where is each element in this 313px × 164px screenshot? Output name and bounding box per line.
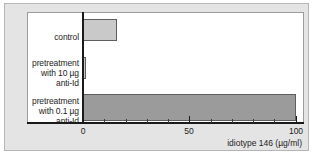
x-tick-minor: [211, 119, 212, 123]
x-tick-minor: [253, 119, 254, 123]
figure-canvas: control pretreatment with 10 µg anti-Id …: [4, 3, 309, 151]
x-tick-minor: [126, 119, 127, 123]
x-tick-label: 100: [289, 126, 303, 136]
x-axis-title: idiotype 146 (µg/ml): [227, 138, 302, 148]
x-tick-minor: [147, 119, 148, 123]
chart-figure: control pretreatment with 10 µg anti-Id …: [0, 0, 313, 164]
x-tick-minor: [274, 119, 275, 123]
x-tick-minor: [232, 119, 233, 123]
x-axis-ticks: 050100: [5, 4, 308, 150]
x-tick-major: [189, 116, 190, 123]
x-tick-minor: [168, 119, 169, 123]
x-tick-label: 50: [184, 126, 193, 136]
x-tick-major: [296, 116, 297, 123]
x-tick-major: [83, 116, 84, 123]
x-tick-minor: [104, 119, 105, 123]
x-tick-label: 0: [81, 126, 86, 136]
